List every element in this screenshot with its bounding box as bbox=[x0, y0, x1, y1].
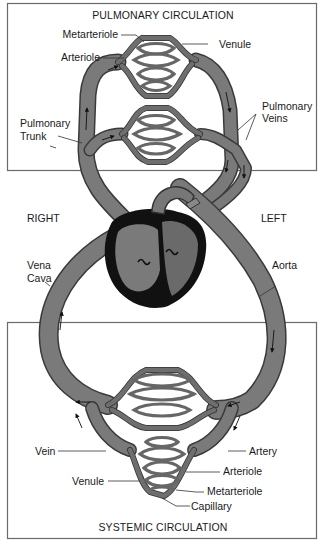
label-vena-cava-line2: Cava bbox=[27, 272, 52, 284]
title-systemic-circulation: SYSTEMIC CIRCULATION bbox=[99, 521, 228, 533]
label-metarteriole-systemic: Metarteriole bbox=[207, 485, 263, 497]
label-artery: Artery bbox=[249, 445, 278, 457]
label-arteriole-systemic: Arteriole bbox=[223, 465, 262, 477]
label-pulmonary-trunk-line2: Trunk bbox=[20, 130, 47, 142]
label-pulmonary-veins-line1: Pulmonary bbox=[262, 100, 313, 112]
systemic-capillary-bed-upper bbox=[108, 370, 216, 428]
pulmonary-box bbox=[8, 4, 317, 171]
title-pulmonary-circulation: PULMONARY CIRCULATION bbox=[92, 9, 234, 21]
pulmonary-capillary-bed-upper bbox=[118, 38, 196, 96]
label-arteriole-pulmonary: Arteriole bbox=[61, 51, 100, 63]
label-capillary: Capillary bbox=[191, 500, 233, 512]
label-venule-systemic: Venule bbox=[72, 475, 104, 487]
circulation-diagram: PULMONARY CIRCULATION Metarteriole Venul… bbox=[0, 0, 326, 544]
label-pulmonary-trunk-line1: Pulmonary bbox=[20, 117, 71, 129]
label-metarteriole-pulmonary: Metarteriole bbox=[63, 28, 119, 40]
label-right-side: RIGHT bbox=[27, 212, 60, 224]
label-left-side: LEFT bbox=[261, 212, 287, 224]
label-vein: Vein bbox=[35, 445, 56, 457]
label-vena-cava-line1: Vena bbox=[27, 259, 51, 271]
label-venule-pulmonary: Venule bbox=[219, 38, 251, 50]
label-pulmonary-veins-line2: Veins bbox=[262, 112, 288, 124]
label-aorta: Aorta bbox=[272, 259, 297, 271]
pulmonary-capillary-bed-lower bbox=[122, 108, 200, 162]
systemic-capillary-bed-lower bbox=[130, 438, 194, 497]
